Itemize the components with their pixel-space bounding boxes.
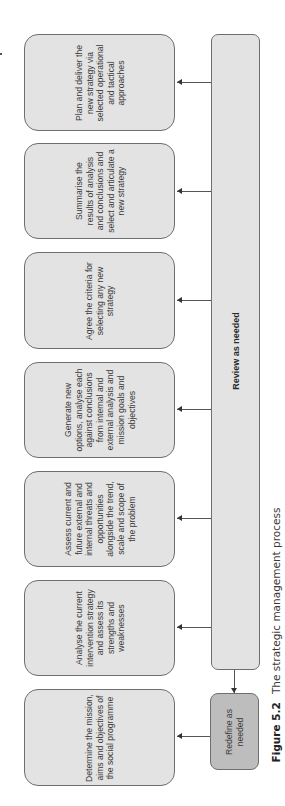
review-bar: Review as needed bbox=[211, 34, 260, 670]
arrow-to-plan bbox=[177, 82, 211, 83]
step-box-generate: Generate new options, analyse each again… bbox=[24, 362, 175, 458]
step-box-assess: Assess current and future external and i… bbox=[24, 471, 175, 567]
step-text-generate: Generate new options, analyse each again… bbox=[62, 368, 136, 452]
redefine-box: Redefine as needed bbox=[210, 693, 259, 770]
arrow-to-generate bbox=[177, 409, 211, 410]
step-box-analyse: Analyse the current intervention strateg… bbox=[24, 580, 175, 676]
review-bar-label: Review as needed bbox=[231, 312, 241, 390]
arrow-review-to-redefine bbox=[234, 670, 235, 693]
step-box-determine: Determine the mission, aims and objectiv… bbox=[24, 689, 175, 786]
figure-title: The strategic management process bbox=[270, 508, 282, 695]
step-text-plan: Plan and deliver the new strategy via se… bbox=[73, 39, 126, 127]
arrow-to-determine bbox=[177, 736, 211, 737]
step-text-summarise: Summarise the results of analysis and co… bbox=[73, 149, 126, 233]
step-text-analyse: Analyse the current intervention strateg… bbox=[73, 588, 126, 668]
arrow-to-analyse bbox=[177, 627, 211, 628]
step-box-summarise: Summarise the results of analysis and co… bbox=[24, 143, 175, 239]
step-box-plan: Plan and deliver the new strategy via se… bbox=[24, 34, 175, 131]
step-text-agree: Agree the criteria for selecting any new… bbox=[84, 257, 116, 345]
step-box-agree: Agree the criteria for selecting any new… bbox=[24, 252, 175, 349]
arrow-to-agree bbox=[177, 300, 211, 301]
arrow-to-summarise bbox=[177, 191, 211, 192]
figure-label: Figure 5.2 bbox=[270, 702, 282, 762]
figure-caption: Figure 5.2The strategic management proce… bbox=[266, 500, 285, 770]
step-text-assess: Assess current and future external and i… bbox=[62, 477, 136, 561]
stray-mark bbox=[0, 53, 2, 55]
redefine-box-label: Redefine as needed bbox=[224, 702, 245, 762]
step-text-determine: Determine the mission, aims and objectiv… bbox=[84, 692, 116, 784]
arrow-to-assess bbox=[177, 518, 211, 519]
